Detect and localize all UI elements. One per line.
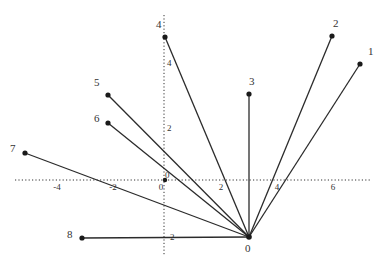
x-tick-label: 2 xyxy=(219,182,224,192)
segments xyxy=(25,36,360,238)
point-label: 7 xyxy=(10,142,16,154)
x-tick-label: 6 xyxy=(331,182,336,192)
x-tick-label: -4 xyxy=(53,182,61,192)
point-label: 2 xyxy=(333,17,339,29)
point-8 xyxy=(79,235,84,240)
point-1 xyxy=(357,61,362,66)
points: 1234567800 xyxy=(10,17,374,254)
point-3 xyxy=(246,91,251,96)
segment-8 xyxy=(82,237,249,238)
diagram-canvas: -4-2024642-2 1234567800 xyxy=(0,0,382,262)
point-label: 5 xyxy=(94,76,100,88)
point-label: 8 xyxy=(67,228,73,240)
segment-7 xyxy=(25,153,249,237)
point-label: 4 xyxy=(156,18,162,30)
point-label: 3 xyxy=(249,75,255,87)
point-4 xyxy=(162,34,167,39)
point-7 xyxy=(22,150,27,155)
point-6 xyxy=(105,120,110,125)
y-tick-label: 4 xyxy=(167,58,172,68)
segment-4 xyxy=(165,37,249,237)
x-tick-label: 0 xyxy=(159,182,164,192)
point-label: 1 xyxy=(368,45,374,57)
origin-label: 0 xyxy=(165,170,170,180)
point-label: 6 xyxy=(94,112,100,124)
segment-6 xyxy=(108,123,249,237)
segment-2 xyxy=(249,36,332,237)
point-5 xyxy=(105,92,110,97)
point-2 xyxy=(329,33,334,38)
segment-1 xyxy=(249,64,360,237)
y-tick-label: 2 xyxy=(167,123,172,133)
segment-5 xyxy=(108,95,249,237)
hub-point xyxy=(246,234,252,240)
hub-label: 0 xyxy=(245,242,251,254)
